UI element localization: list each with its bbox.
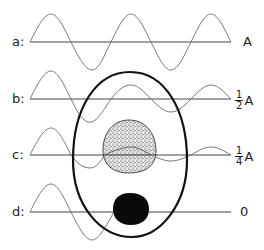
row-label-d: d:: [12, 205, 25, 218]
row-label-c: c:: [12, 148, 24, 161]
fraction-quarter: 1 4: [235, 146, 243, 167]
fraction-half: 1 2: [235, 90, 243, 111]
wave-b: [30, 71, 231, 122]
row-label-b: b:: [12, 92, 25, 105]
fraction-denominator: 2: [236, 101, 242, 111]
amplitude-label-a: A: [243, 35, 252, 48]
amplitude-symbol: A: [244, 93, 253, 108]
row-label-a: a:: [12, 35, 24, 48]
stippled-nucleus: [103, 120, 156, 173]
diagram-canvas: [0, 0, 264, 250]
black-body: [113, 193, 149, 225]
amplitude-label-b: 1 2 A: [235, 90, 253, 111]
amplitude-label-c: 1 4 A: [235, 146, 253, 167]
amplitude-label-d: 0: [240, 205, 248, 218]
fraction-denominator: 4: [236, 157, 242, 167]
amplitude-symbol: A: [244, 149, 253, 164]
